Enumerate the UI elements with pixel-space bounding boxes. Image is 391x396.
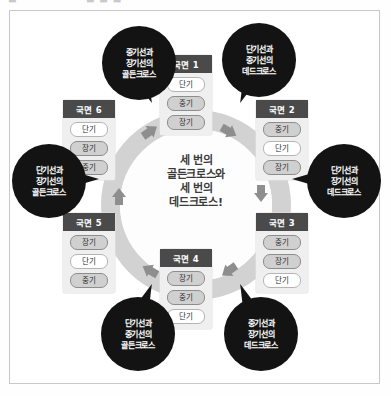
phase-title: 국면 4 (160, 249, 212, 267)
page-top-crop-artifact: ▬ ▬ ▬ ▬ (0, 0, 391, 9)
phase-title: 국면 2 (256, 100, 308, 118)
phase-3-row-3: 단기 (263, 273, 301, 288)
callout-top-left[interactable]: 중기선과 장기선의 골든크로스 (102, 26, 176, 100)
phase-4-row-1: 장기 (167, 271, 205, 286)
phase-1-row-1: 단기 (167, 77, 205, 92)
center-summary-text: 세 번의 골든크로스와 세 번의 데드크로스! (121, 154, 271, 210)
phase-6-row-1: 단기 (70, 122, 108, 137)
callout-left[interactable]: 단기선과 장기선의 골든크로스 (12, 144, 86, 218)
top-crop-fragment-a: ▬ (8, 0, 18, 5)
diagram-canvas: ▬ ▬ ▬ ▬ 세 번의 골든크로스와 세 번의 데드크로스! 국면 1 단기 … (0, 0, 391, 396)
phase-5-row-1: 장기 (70, 235, 108, 250)
phase-title: 국면 5 (63, 213, 115, 231)
arrow-stem (115, 195, 123, 205)
phase-3-row-2: 장기 (263, 254, 301, 269)
phase-2-row-1: 중기 (263, 122, 301, 137)
phase-5-row-3: 중기 (70, 273, 108, 288)
callout-right[interactable]: 단기선과 장기선의 데드크로스 (307, 144, 381, 218)
callout-bottom-left[interactable]: 단기선과 중기선의 골든크로스 (101, 297, 175, 371)
phase-3-row-1: 중기 (263, 235, 301, 250)
callout-top-right[interactable]: 단기선과 중기선의 데드크로스 (222, 23, 296, 97)
phase-5-row-2: 단기 (70, 254, 108, 269)
phase-box-3[interactable]: 국면 3 중기 장기 단기 (256, 213, 308, 293)
phase-4-row-2: 중기 (167, 290, 205, 305)
phase-title: 국면 6 (63, 100, 115, 118)
phase-1-row-2: 중기 (167, 96, 205, 111)
phase-title: 국면 3 (256, 213, 308, 231)
top-crop-fragment-b: ▬ ▬ ▬ (86, 0, 122, 5)
flow-arrow-2-to-3 (254, 185, 268, 202)
phase-2-row-2: 단기 (263, 141, 301, 156)
phase-1-row-3: 장기 (167, 115, 205, 130)
phase-6-row-2: 장기 (70, 141, 108, 156)
flow-arrow-5-to-6 (112, 188, 126, 205)
callout-bottom-right[interactable]: 중기선과 장기선의 데드크로스 (224, 297, 298, 371)
phase-box-5[interactable]: 국면 5 장기 단기 중기 (63, 213, 115, 293)
phase-box-2[interactable]: 국면 2 중기 단기 장기 (256, 100, 308, 180)
arrow-stem (257, 185, 265, 195)
